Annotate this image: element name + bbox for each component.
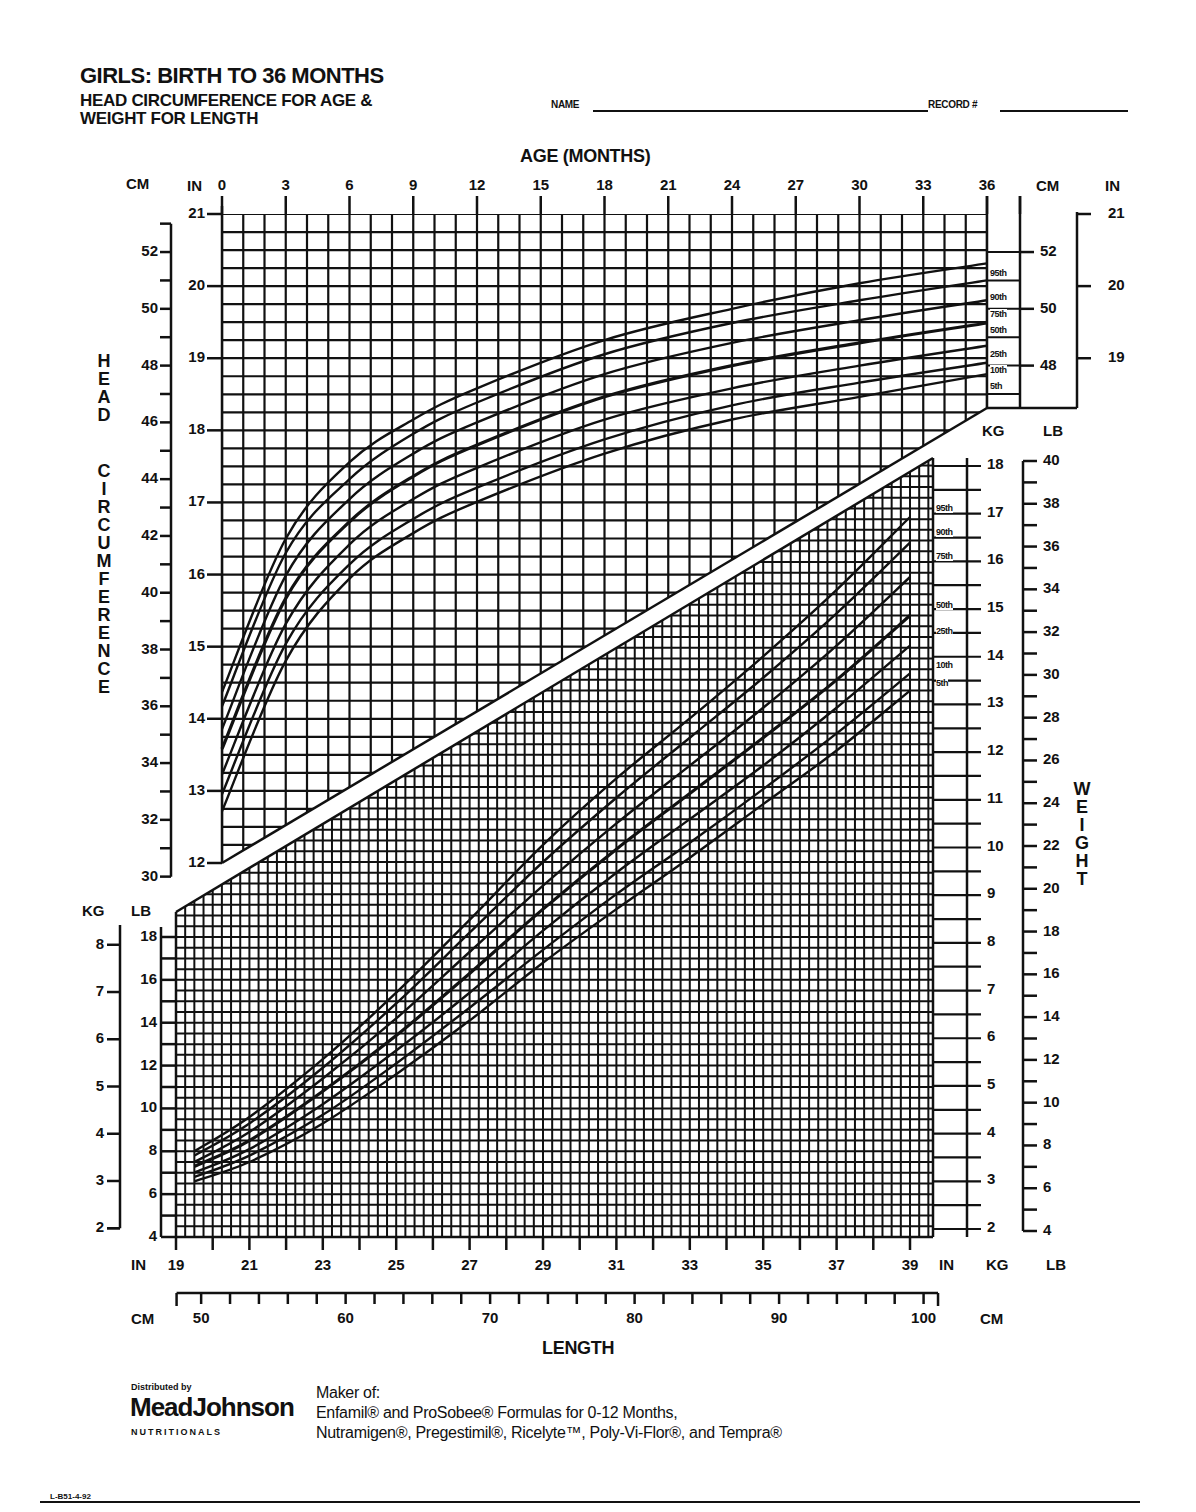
footer-line-2: Nutramigen®, Pregestimil®, Ricelyte™, Po… (316, 1424, 782, 1442)
percentile-label-head: 50th (990, 325, 1007, 335)
percentile-label-weight: 90th (936, 527, 953, 537)
form-code: L-B51-4-92 (50, 1492, 91, 1501)
maker-of-label: Maker of: (316, 1384, 380, 1402)
brand-sub: NUTRITIONALS (131, 1427, 222, 1437)
percentile-label-head: 95th (990, 268, 1007, 278)
footer-rule (40, 1501, 1140, 1503)
percentile-label-weight: 75th (936, 551, 953, 561)
percentile-label-weight: 10th (936, 660, 953, 670)
percentile-label-weight: 50th (936, 600, 953, 610)
growth-chart-canvas (0, 0, 1196, 1512)
percentile-label-head: 75th (990, 309, 1007, 319)
percentile-label-head: 25th (990, 349, 1007, 359)
brand-logo: MeadJohnson (130, 1392, 294, 1423)
footer-line-1: Enfamil® and ProSobee® Formulas for 0-12… (316, 1404, 677, 1422)
percentile-label-weight: 95th (936, 503, 953, 513)
percentile-label-head: 10th (990, 365, 1007, 375)
percentile-label-head: 90th (990, 292, 1007, 302)
distributed-by-label: Distributed by (131, 1382, 192, 1392)
percentile-label-weight: 25th (936, 626, 953, 636)
percentile-label-weight: 5th (936, 678, 948, 688)
percentile-label-head: 5th (990, 381, 1002, 391)
